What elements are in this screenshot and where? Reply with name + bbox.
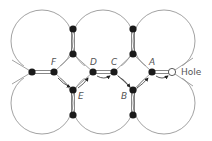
atom-A: [148, 68, 155, 75]
atom-B: [129, 86, 136, 93]
atom-lower-1: [69, 111, 76, 118]
atom-left: [28, 68, 35, 75]
atom-C: [110, 68, 117, 75]
atom-D: [89, 68, 96, 75]
atom-F: [50, 68, 57, 75]
hole-conduction-diagram: F D C A E B Hole: [0, 0, 212, 141]
atom-upper-1: [69, 50, 76, 57]
atom-top-1: [69, 25, 76, 32]
arrow-b-to-a: [137, 78, 148, 88]
top-circles: [11, 10, 195, 72]
label-E: E: [78, 91, 84, 101]
bottom-circles: [11, 72, 195, 134]
hole-marker: [168, 68, 175, 75]
atom-top-2: [129, 25, 136, 32]
label-C: C: [111, 57, 118, 67]
circle-top-middle: [72, 10, 134, 72]
label-B: B: [121, 91, 127, 101]
atom-upper-2: [129, 50, 136, 57]
label-F: F: [51, 57, 57, 67]
label-hole: Hole: [181, 67, 202, 77]
atom-lower-2: [129, 111, 136, 118]
label-A: A: [148, 57, 155, 67]
label-D: D: [90, 57, 97, 67]
atom-E: [69, 86, 76, 93]
